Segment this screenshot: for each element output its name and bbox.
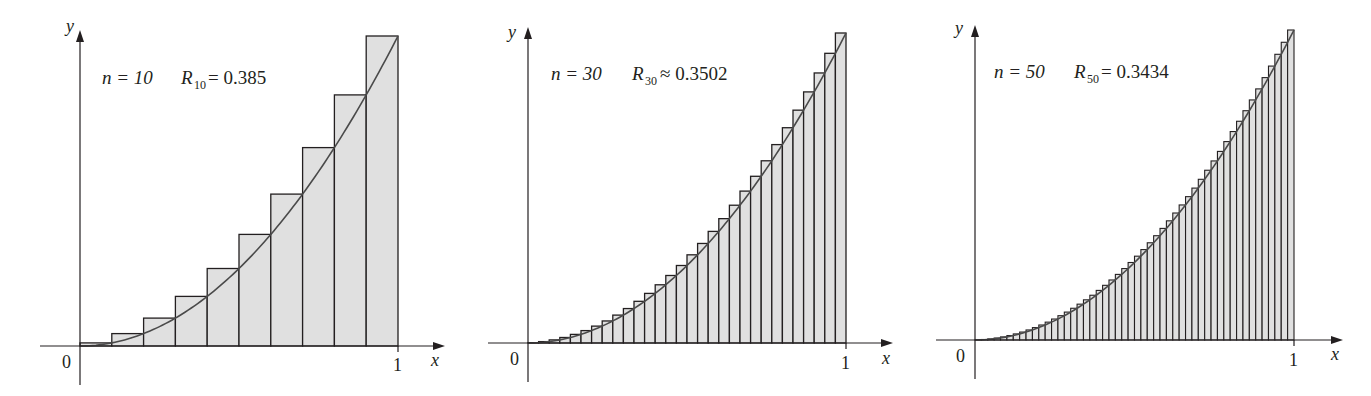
- r-value: = 0.385: [208, 67, 266, 88]
- chart-n30: y x 0 1 n = 30 R 30 ≈ 0.3502: [488, 22, 893, 382]
- riemann-bar: [1217, 151, 1223, 340]
- riemann-bar: [334, 95, 366, 346]
- n-label: n = 10: [102, 67, 153, 88]
- x-tick-1: 1: [1289, 350, 1298, 370]
- riemann-bar: [1268, 66, 1274, 340]
- riemann-bar: [825, 53, 836, 343]
- riemann-bar: [366, 36, 398, 346]
- riemann-bar: [1281, 42, 1287, 340]
- riemann-bar: [761, 161, 772, 343]
- x-tick-1: 1: [841, 353, 850, 373]
- x-axis-arrow-icon: [433, 342, 445, 350]
- riemann-bar: [207, 269, 239, 347]
- riemann-bar: [1205, 170, 1211, 340]
- riemann-bar: [1071, 308, 1077, 340]
- riemann-bar: [1128, 263, 1134, 341]
- r-value: ≈ 0.3502: [660, 63, 727, 84]
- y-axis-arrow-icon: [971, 25, 979, 37]
- n-label: n = 30: [551, 63, 602, 84]
- r-symbol: R: [1073, 61, 1086, 82]
- r-subscript: 50: [1087, 72, 1099, 86]
- x-axis-label: x: [1330, 344, 1339, 364]
- riemann-bar: [708, 231, 719, 343]
- riemann-bar: [1186, 197, 1192, 340]
- x-tick-0: 0: [510, 349, 519, 369]
- riemann-bar: [1122, 269, 1128, 340]
- x-axis-label: x: [430, 350, 439, 370]
- riemann-bar: [1096, 290, 1102, 340]
- riemann-bar: [729, 205, 740, 343]
- riemann-bar: [1230, 132, 1236, 340]
- annotation: n = 50 R 50 = 0.3434: [994, 61, 1169, 86]
- riemann-bar: [1090, 295, 1096, 340]
- riemann-bar: [1135, 256, 1141, 340]
- riemann-bar: [1064, 312, 1070, 340]
- x-tick-0: 0: [62, 352, 71, 372]
- riemann-bar: [1141, 250, 1147, 340]
- riemann-bar: [719, 219, 730, 343]
- y-axis-arrow-icon: [524, 27, 532, 39]
- riemann-bar: [1288, 30, 1294, 340]
- riemann-bar: [1160, 228, 1166, 340]
- chart-n50: y x 0 1 n = 50 R 50 = 0.3434: [936, 18, 1343, 379]
- riemann-bar: [1198, 179, 1204, 340]
- r-subscript: 30: [645, 74, 657, 88]
- x-tick-1: 1: [393, 355, 402, 375]
- riemann-bar: [1243, 111, 1249, 340]
- riemann-bar: [1262, 78, 1268, 340]
- r-subscript: 10: [194, 78, 206, 92]
- riemann-bar: [751, 176, 762, 343]
- x-axis-arrow-icon: [881, 339, 893, 347]
- y-axis-label: y: [953, 18, 963, 38]
- riemann-bar: [1103, 285, 1109, 340]
- r-value: = 0.3434: [1101, 61, 1169, 82]
- riemann-bar: [1249, 100, 1255, 340]
- r-symbol: R: [631, 63, 644, 84]
- riemann-bar: [740, 191, 751, 343]
- riemann-bar: [1179, 205, 1185, 340]
- riemann-bar: [175, 296, 207, 346]
- riemann-bar: [1115, 274, 1121, 340]
- riemann-bar: [1154, 236, 1160, 340]
- y-axis-label: y: [506, 22, 516, 42]
- riemann-bar: [1275, 54, 1281, 340]
- riemann-bar: [676, 266, 687, 344]
- riemann-bar: [782, 128, 793, 343]
- riemann-bar: [666, 275, 677, 343]
- riemann-bar: [1192, 188, 1198, 340]
- riemann-bar: [1147, 243, 1153, 340]
- riemann-bar: [804, 92, 815, 343]
- chart-n10: y x 0 1 n = 10 R 10 = 0.385: [40, 16, 445, 385]
- riemann-sum-figure: y x 0 1 n = 10 R 10 = 0.385 y x 0 1 n = …: [0, 0, 1371, 396]
- r-symbol: R: [180, 67, 193, 88]
- riemann-bar: [1109, 280, 1115, 340]
- x-axis-arrow-icon: [1331, 336, 1343, 344]
- riemann-bar: [1077, 304, 1083, 340]
- y-axis-arrow-icon: [76, 30, 84, 42]
- annotation: n = 30 R 30 ≈ 0.3502: [551, 63, 727, 88]
- riemann-bar: [271, 194, 303, 346]
- riemann-bar: [835, 33, 846, 343]
- x-axis-label: x: [881, 348, 890, 368]
- riemann-bar: [1256, 89, 1262, 340]
- riemann-bar: [698, 243, 709, 343]
- riemann-bar: [1224, 142, 1230, 340]
- riemann-bar: [655, 285, 666, 343]
- riemann-bar: [772, 145, 783, 343]
- y-axis-label: y: [64, 16, 74, 36]
- riemann-bar: [1083, 300, 1089, 340]
- riemann-bar: [793, 110, 804, 343]
- x-tick-0: 0: [956, 346, 965, 366]
- n-label: n = 50: [994, 61, 1045, 82]
- riemann-bar: [1211, 161, 1217, 340]
- riemann-bar: [1237, 121, 1243, 340]
- riemann-bar: [814, 73, 825, 343]
- riemann-bar: [1166, 221, 1172, 340]
- riemann-bar: [303, 148, 335, 346]
- riemann-bar: [687, 255, 698, 343]
- annotation: n = 10 R 10 = 0.385: [102, 67, 266, 92]
- riemann-bar: [1173, 213, 1179, 340]
